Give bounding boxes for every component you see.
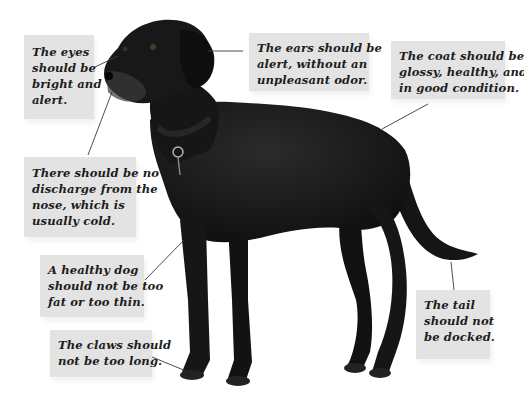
callout-tail-line: The tail — [424, 297, 482, 313]
callout-claws: The claws should not be too long. — [50, 330, 152, 377]
callout-nose-line: usually cold. — [32, 213, 128, 229]
dog-far-hind-leg — [339, 215, 372, 370]
callout-tail: The tail should not be docked. — [416, 290, 490, 359]
callout-eyes-line: alert. — [32, 92, 86, 108]
callout-healthy-line: should not be too — [48, 278, 136, 294]
callout-coat-line: in good condition. — [399, 80, 497, 96]
callout-nose: There should be no discharge from the no… — [24, 157, 136, 237]
dog-near-front-leg — [180, 220, 210, 376]
callout-claws-line: not be too long. — [58, 353, 144, 369]
callout-eyes-line: bright and — [32, 76, 86, 92]
callout-coat-line: The coat should be — [399, 48, 497, 64]
leader-line-healthy — [145, 240, 184, 280]
dog-paw — [226, 376, 250, 386]
dog-paw — [344, 363, 366, 373]
callout-ears-line: The ears should be — [257, 40, 361, 56]
callout-healthy-weight: A healthy dog should not be too fat or t… — [40, 255, 144, 317]
callout-ears: The ears should be alert, without an unp… — [249, 33, 369, 91]
dog-paw — [369, 368, 391, 378]
dog-nose — [105, 72, 113, 80]
callout-tail-line: should not — [424, 313, 482, 329]
leader-line-tail — [451, 262, 454, 290]
leader-line-coat — [382, 104, 428, 129]
callout-coat: The coat should be glossy, healthy, and … — [391, 41, 505, 99]
callout-healthy-line: fat or too thin. — [48, 294, 136, 310]
callout-tail-line: be docked. — [424, 329, 482, 345]
dog-eye — [150, 44, 156, 50]
callout-nose-line: discharge from the — [32, 181, 128, 197]
callout-claws-line: The claws should — [58, 337, 144, 353]
callout-healthy-line: A healthy dog — [48, 262, 136, 278]
callout-nose-line: nose, which is — [32, 197, 128, 213]
callout-eyes: The eyes should be bright and alert. — [24, 35, 94, 119]
dog-far-front-leg — [228, 225, 252, 380]
dog-paw — [180, 370, 204, 380]
callout-nose-line: There should be no — [32, 165, 128, 181]
callout-coat-line: glossy, healthy, and — [399, 64, 497, 80]
callout-eyes-line: The eyes — [32, 44, 86, 60]
callout-ears-line: unpleasant odor. — [257, 72, 361, 88]
callout-eyes-line: should be — [32, 60, 86, 76]
dog-eye-far — [123, 47, 128, 52]
dog-health-diagram: The eyes should be bright and alert. The… — [0, 0, 524, 405]
callout-ears-line: alert, without an — [257, 56, 361, 72]
